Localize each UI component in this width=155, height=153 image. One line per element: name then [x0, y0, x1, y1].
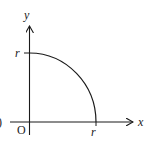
- y-axis-label: y: [23, 8, 30, 22]
- left-edge-fragment: ): [0, 115, 2, 129]
- origin-label: O: [17, 123, 26, 137]
- quarter-circle-arc: [30, 53, 97, 122]
- x-axis-label: x: [137, 115, 144, 129]
- y-tick-label: r: [15, 46, 20, 60]
- x-tick-label: r: [91, 125, 96, 139]
- quarter-circle-diagram: y x O r r ): [0, 0, 155, 153]
